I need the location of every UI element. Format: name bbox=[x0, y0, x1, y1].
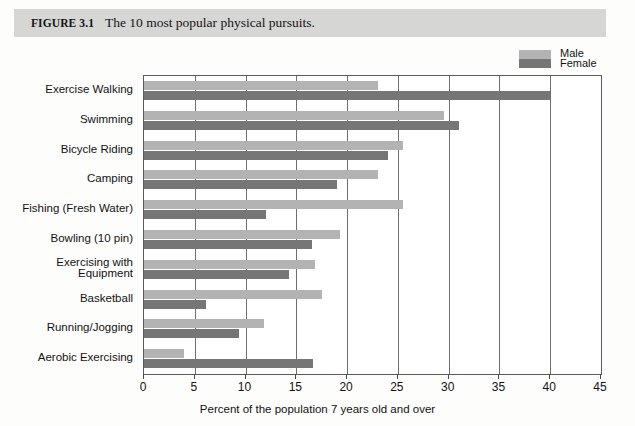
bar-group bbox=[144, 80, 601, 110]
category-label: Bowling (10 pin) bbox=[51, 233, 133, 245]
bar-male bbox=[144, 230, 340, 239]
bar-female bbox=[144, 329, 239, 338]
x-tick-mark bbox=[194, 374, 195, 379]
bar-group bbox=[144, 140, 601, 170]
x-tick-mark bbox=[549, 374, 550, 379]
category-label: Swimming bbox=[80, 114, 133, 126]
bar-male bbox=[144, 200, 403, 209]
x-tick-label: 0 bbox=[140, 380, 147, 394]
bar-male bbox=[144, 349, 184, 358]
bar-group bbox=[144, 199, 601, 229]
bar-group bbox=[144, 318, 601, 348]
x-tick-label: 40 bbox=[543, 380, 556, 394]
bar-female bbox=[144, 240, 312, 249]
legend-labels: Male Female bbox=[560, 49, 597, 68]
chart-legend: Male Female bbox=[519, 49, 597, 68]
x-tick-label: 25 bbox=[390, 380, 403, 394]
bar-female bbox=[144, 270, 289, 279]
category-label: Camping bbox=[87, 173, 133, 185]
x-tick-mark bbox=[448, 374, 449, 379]
bar-male bbox=[144, 111, 444, 120]
category-axis-labels: Exercise WalkingSwimmingBicycle RidingCa… bbox=[0, 75, 138, 373]
bar-female bbox=[144, 151, 388, 160]
legend-swatch-female bbox=[519, 59, 551, 68]
category-label: Basketball bbox=[80, 293, 133, 305]
bar-group bbox=[144, 110, 601, 140]
category-label: Fishing (Fresh Water) bbox=[22, 203, 133, 215]
bar-female bbox=[144, 121, 459, 130]
x-tick-mark bbox=[245, 374, 246, 379]
plot-area bbox=[143, 75, 602, 375]
bar-female bbox=[144, 91, 550, 100]
x-tick-mark bbox=[397, 374, 398, 379]
legend-swatches bbox=[519, 50, 551, 68]
x-tick-label: 15 bbox=[289, 380, 302, 394]
bar-male bbox=[144, 141, 403, 150]
x-tick-mark bbox=[346, 374, 347, 379]
bar-male bbox=[144, 170, 378, 179]
x-axis-title: Percent of the population 7 years old an… bbox=[0, 403, 635, 415]
x-axis: 051015202530354045 bbox=[143, 374, 602, 396]
legend-swatch-male bbox=[519, 50, 551, 59]
bar-group bbox=[144, 259, 601, 289]
bar-group bbox=[144, 229, 601, 259]
x-tick-mark bbox=[498, 374, 499, 379]
x-tick-label: 5 bbox=[190, 380, 197, 394]
figure-container: FIGURE 3.1 The 10 most popular physical … bbox=[0, 0, 635, 426]
category-label: Exercising with Equipment bbox=[56, 257, 133, 280]
bar-male bbox=[144, 290, 322, 299]
x-tick-mark bbox=[143, 374, 144, 379]
bar-group bbox=[144, 289, 601, 319]
figure-caption: The 10 most popular physical pursuits. bbox=[105, 15, 315, 31]
x-tick-mark bbox=[295, 374, 296, 379]
bar-male bbox=[144, 319, 264, 328]
x-tick-label: 35 bbox=[492, 380, 505, 394]
bar-female bbox=[144, 210, 266, 219]
x-tick-label: 10 bbox=[238, 380, 251, 394]
bar-female bbox=[144, 180, 337, 189]
bar-female bbox=[144, 359, 313, 368]
figure-header-band: FIGURE 3.1 The 10 most popular physical … bbox=[14, 9, 606, 37]
bars-layer bbox=[144, 76, 601, 374]
figure-number: FIGURE 3.1 bbox=[31, 17, 94, 29]
bar-male bbox=[144, 260, 315, 269]
bar-male bbox=[144, 81, 378, 90]
x-tick-label: 45 bbox=[593, 380, 606, 394]
category-label: Bicycle Riding bbox=[61, 144, 133, 156]
bar-group bbox=[144, 169, 601, 199]
category-label: Running/Jogging bbox=[47, 322, 133, 334]
category-label: Aerobic Exercising bbox=[38, 352, 133, 364]
x-tick-mark bbox=[600, 374, 601, 379]
legend-label-female: Female bbox=[560, 59, 597, 69]
x-tick-label: 20 bbox=[339, 380, 352, 394]
x-tick-label: 30 bbox=[441, 380, 454, 394]
category-label: Exercise Walking bbox=[45, 84, 133, 96]
bar-female bbox=[144, 300, 206, 309]
